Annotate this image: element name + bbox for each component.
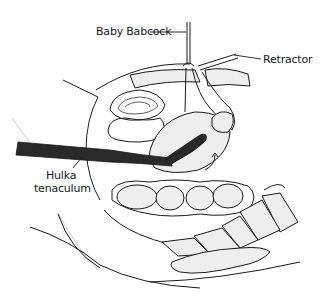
bowel-segment-3 <box>186 186 214 210</box>
diagram-canvas: Baby Babcock Retractor Hulka tenaculum <box>0 0 324 301</box>
label-retractor: Retractor <box>263 54 312 66</box>
label-hulka-line1: Hulka <box>46 170 76 182</box>
bowel-segment-4 <box>213 184 243 208</box>
bowel-segment-1 <box>117 185 157 209</box>
faint-stroke <box>12 118 30 143</box>
abdominal-wall-left <box>130 70 200 88</box>
skin-leader-line <box>63 80 98 97</box>
ovary <box>212 112 233 133</box>
anatomy-illustration <box>0 0 324 301</box>
hulka-tenaculum-instrument <box>16 142 172 166</box>
label-hulka-line2: tenaculum <box>34 183 91 195</box>
bowel-segment-2 <box>156 186 184 210</box>
lower-body-contour <box>30 227 200 288</box>
bladder-fold <box>125 102 150 107</box>
abdominal-wall-right <box>205 69 250 86</box>
bladder <box>110 90 165 120</box>
bladder-inner <box>118 97 158 114</box>
label-baby-babcock: Baby Babcock <box>96 26 171 38</box>
sacrum-top <box>264 184 285 190</box>
